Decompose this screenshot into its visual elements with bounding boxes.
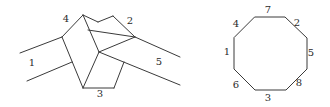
knot-diagram: 12345 — [20, 13, 180, 99]
diagram-canvas: 12345 72583614 — [0, 0, 330, 107]
octagon-label-7: 7 — [265, 4, 271, 15]
knot-edge — [114, 62, 124, 88]
octagon-label-4: 4 — [233, 18, 239, 29]
octagon-label-2: 2 — [294, 17, 300, 28]
knot-edge — [99, 52, 180, 85]
knot-label-2: 2 — [127, 15, 133, 26]
knot-label-4: 4 — [63, 13, 69, 24]
knot-edge — [83, 52, 99, 88]
knot-edge — [99, 37, 135, 52]
knot-edge — [98, 16, 113, 22]
knot-label-1: 1 — [29, 57, 35, 68]
octagon-label-1: 1 — [224, 46, 230, 57]
knot-edge — [83, 15, 99, 52]
knot-edge — [20, 37, 62, 53]
knot-label-5: 5 — [156, 56, 162, 67]
octagon-label-5: 5 — [308, 47, 314, 58]
octagon-label-6: 6 — [233, 79, 239, 90]
knot-edge — [62, 37, 83, 88]
octagon-label-8: 8 — [296, 77, 302, 88]
knot-edge — [135, 37, 180, 57]
octagon-diagram: 72583614 — [224, 4, 314, 103]
octagon-label-3: 3 — [265, 92, 271, 103]
knot-edge — [88, 30, 135, 37]
knot-label-3: 3 — [97, 88, 103, 99]
